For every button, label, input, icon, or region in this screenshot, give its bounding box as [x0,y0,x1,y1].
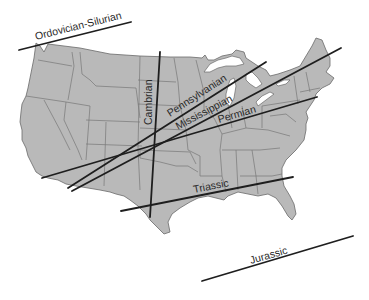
jurassic-line [202,236,353,281]
cambrian-label: Cambrian [142,79,154,125]
jurassic-label: Jurassic [248,244,288,266]
ordovician-silurian-label: Ordovician-Silurian [34,9,123,42]
geologic-period-map: Ordovician-SilurianCambrianPennsylvanian… [0,0,369,300]
